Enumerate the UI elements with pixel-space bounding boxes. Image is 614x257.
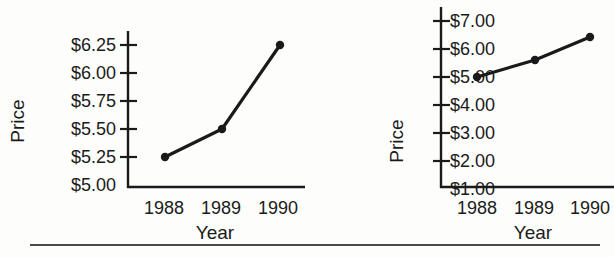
left-chart-data-point-1990 — [276, 41, 284, 49]
left-chart-xtick-label-1990: 1990 — [253, 199, 303, 217]
left-chart-figure: Price $6.25 $6.00 $5.75 $5.50 $5.25 $5.0… — [0, 0, 307, 245]
left-chart-data-point-1989 — [218, 125, 226, 133]
bottom-divider-rule — [30, 244, 600, 246]
right-chart-data-point-1988 — [473, 73, 481, 81]
left-chart-xtick-label-1989: 1989 — [196, 199, 246, 217]
right-chart-data-point-1989 — [531, 56, 539, 64]
right-chart-x-axis-title: Year — [478, 222, 588, 244]
right-chart-xtick-label-1990: 1990 — [565, 199, 614, 217]
right-chart-data-point-1990 — [586, 33, 594, 41]
right-chart-xtick-label-1989: 1989 — [509, 199, 559, 217]
figure-page: Price $6.25 $6.00 $5.75 $5.50 $5.25 $5.0… — [0, 0, 614, 257]
left-chart-data-line — [165, 45, 280, 157]
left-chart-xtick-label-1988: 1988 — [139, 199, 189, 217]
right-chart-figure: Price $7.00 $6.00 $5.00 $4.00 $3.00 $2.0… — [307, 0, 614, 245]
right-chart-xtick-label-1988: 1988 — [452, 199, 502, 217]
left-chart-data-point-1988 — [161, 153, 169, 161]
left-chart-x-axis-title: Year — [160, 222, 270, 244]
